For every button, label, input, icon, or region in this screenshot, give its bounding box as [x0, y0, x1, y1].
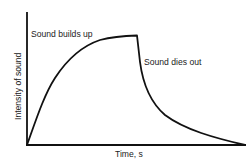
- sound-intensity-diagram: Sound builds up Sound dies out Time, s I…: [0, 0, 252, 167]
- sound-intensity-curve: [27, 36, 245, 146]
- y-axis-label: Intensity of sound: [13, 52, 23, 120]
- annotation-sound-builds-up: Sound builds up: [31, 29, 93, 39]
- x-axis-label: Time, s: [115, 149, 143, 159]
- annotation-sound-dies-out: Sound dies out: [144, 57, 202, 67]
